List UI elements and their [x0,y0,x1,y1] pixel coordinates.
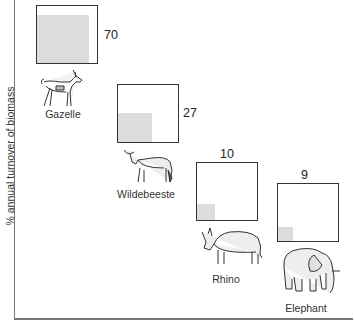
animal-name-gazelle: Gazelle [23,108,103,120]
turnover-fill-elephant [278,227,293,241]
biomass-box-wildebeeste [117,84,179,143]
rhino-icon [200,228,265,268]
value-label-elephant: 9 [301,168,308,182]
turnover-fill-gazelle [37,15,89,63]
turnover-fill-rhino [197,204,215,220]
wildebeeste-icon [122,148,177,188]
value-label-wildebeeste: 27 [183,106,197,120]
biomass-box-gazelle [36,5,98,64]
biomass-box-rhino [196,162,258,221]
elephant-icon [280,245,342,297]
animal-name-elephant: Elephant [266,302,346,314]
turnover-fill-wildebeeste [118,113,152,142]
value-label-rhino: 10 [220,147,234,161]
value-label-gazelle: 70 [104,28,118,42]
biomass-box-elephant [277,183,339,242]
animal-name-rhino: Rhino [186,273,266,285]
y-axis-label: % annual turnover of biomass [4,86,16,226]
animal-name-wildebeeste: Wildebeeste [106,188,186,200]
